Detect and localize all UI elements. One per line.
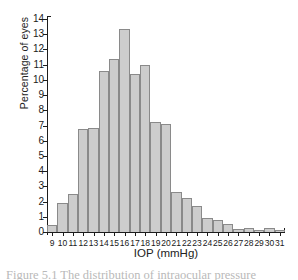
bar bbox=[213, 220, 223, 232]
x-tick-mark bbox=[269, 232, 270, 236]
x-tick-mark bbox=[187, 232, 188, 236]
x-tick-mark bbox=[114, 232, 115, 236]
y-tick-label: 12 bbox=[24, 42, 44, 55]
x-tick-mark bbox=[145, 232, 146, 236]
bar bbox=[140, 65, 150, 232]
y-tick-label: 4 bbox=[24, 164, 44, 177]
y-tick-label: 14 bbox=[24, 12, 44, 25]
y-tick-label: 11 bbox=[24, 58, 44, 71]
y-tick-label: 1 bbox=[24, 210, 44, 223]
plot-area: 01234567891011121314 9101112131415161718… bbox=[47, 19, 285, 232]
x-tick-mark bbox=[207, 232, 208, 236]
bar bbox=[171, 192, 181, 232]
x-tick-mark bbox=[83, 232, 84, 236]
bar bbox=[202, 218, 212, 232]
y-axis-top-cap bbox=[47, 16, 51, 17]
y-tick-label: 8 bbox=[24, 103, 44, 116]
bar bbox=[223, 224, 233, 232]
bar bbox=[182, 198, 192, 232]
x-axis-title: IOP (mmHg) bbox=[47, 247, 285, 259]
x-tick-mark bbox=[280, 232, 281, 236]
bar bbox=[88, 128, 98, 232]
y-tick-label: 6 bbox=[24, 134, 44, 147]
x-tick-mark bbox=[135, 232, 136, 236]
x-tick-mark bbox=[238, 232, 239, 236]
bar bbox=[99, 71, 109, 232]
y-tick-label: 10 bbox=[24, 73, 44, 86]
bar-series bbox=[47, 19, 285, 232]
x-tick-mark bbox=[259, 232, 260, 236]
bar bbox=[119, 29, 129, 232]
y-tick-label: 5 bbox=[24, 149, 44, 162]
bar bbox=[130, 74, 140, 232]
y-tick-label: 7 bbox=[24, 119, 44, 132]
y-tick-label: 0 bbox=[24, 225, 44, 238]
y-tick-label: 3 bbox=[24, 179, 44, 192]
y-tick-label: 2 bbox=[24, 195, 44, 208]
x-tick-mark bbox=[249, 232, 250, 236]
bar bbox=[109, 59, 119, 232]
bar bbox=[150, 122, 160, 232]
bar bbox=[57, 203, 67, 232]
x-tick-mark bbox=[156, 232, 157, 236]
x-tick-mark bbox=[104, 232, 105, 236]
x-tick-mark bbox=[166, 232, 167, 236]
x-tick-mark bbox=[218, 232, 219, 236]
x-tick-mark bbox=[94, 232, 95, 236]
bar bbox=[68, 194, 78, 232]
x-tick-mark bbox=[63, 232, 64, 236]
y-tick-label: 9 bbox=[24, 88, 44, 101]
x-tick-mark bbox=[228, 232, 229, 236]
y-tick-label: 13 bbox=[24, 27, 44, 40]
x-tick-mark bbox=[52, 232, 53, 236]
x-tick-mark bbox=[125, 232, 126, 236]
x-tick-mark bbox=[73, 232, 74, 236]
figure-histogram-iop: Percentage of eyes 01234567891011121314 … bbox=[0, 0, 298, 280]
x-tick-mark bbox=[176, 232, 177, 236]
bar bbox=[47, 225, 57, 232]
bar bbox=[78, 129, 88, 232]
x-tick-mark bbox=[197, 232, 198, 236]
bar bbox=[161, 124, 171, 232]
bar bbox=[192, 206, 202, 232]
figure-caption: Figure 5.1 The distribution of intraocul… bbox=[6, 268, 296, 280]
